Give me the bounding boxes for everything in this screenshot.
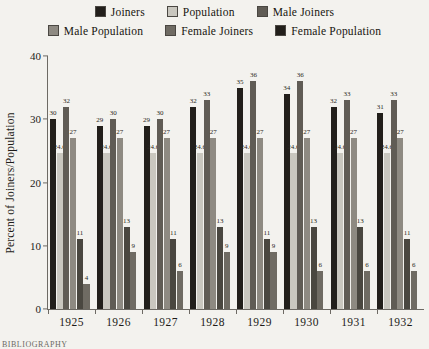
legend-item-male-joiners[interactable]: Male Joiners [257,6,334,18]
bar-male-population-1925[interactable]: 27 [70,138,76,309]
bar-female-joiners-1925[interactable]: 11 [77,239,83,309]
bar-female-joiners-1927[interactable]: 11 [170,239,176,309]
bar-slot: 24.6 [290,56,296,309]
bar-group-1927: 2924.63027116 [144,56,191,309]
bar-joiners-1928[interactable]: 32 [190,107,196,309]
legend-item-male-population[interactable]: Male Population [48,25,143,37]
bar-value-label: 31 [377,103,384,112]
bar-male-population-1932[interactable]: 27 [397,138,403,309]
bar-slot: 24.6 [197,56,203,309]
bar-slot: 6 [317,56,323,309]
bar-male-population-1926[interactable]: 27 [117,138,123,309]
bar-value-label: 27 [303,128,310,137]
bar-slot: 36 [297,56,303,309]
y-axis-title-label: Percent of Joiners/Population [4,112,16,253]
bar-female-population-1931[interactable]: 6 [364,271,370,309]
x-axis-tick-label-1929: 1929 [247,316,272,328]
legend-item-female-population[interactable]: Female Population [275,25,381,37]
bar-male-population-1930[interactable]: 27 [304,138,310,309]
bar-female-population-1925[interactable]: 4 [83,284,89,309]
x-axis-tick-mark [95,309,96,314]
bar-male-joiners-1925[interactable]: 32 [63,107,69,309]
bar-female-joiners-1931[interactable]: 13 [357,227,363,309]
bar-male-joiners-1931[interactable]: 33 [344,100,350,309]
bar-slot: 30 [157,56,163,309]
x-axis-tick-mark [189,309,190,314]
bar-slot: 24.6 [384,56,390,309]
bar-value-label: 13 [357,217,364,226]
bar-value-label: 6 [365,261,369,270]
bar-male-joiners-1926[interactable]: 30 [110,119,116,309]
bar-slot: 35 [237,56,243,309]
bar-male-population-1929[interactable]: 27 [257,138,263,309]
bar-female-joiners-1926[interactable]: 13 [124,227,130,309]
bar-female-joiners-1929[interactable]: 11 [264,239,270,309]
bar-value-label: 29 [96,116,103,125]
bar-female-joiners-1932[interactable]: 11 [404,239,410,309]
bar-value-label: 33 [390,90,397,99]
x-axis-tick-label-1926: 1926 [106,316,131,328]
bar-population-1932[interactable]: 24.6 [384,153,390,309]
legend-label: Male Population [64,25,143,37]
bar-female-population-1932[interactable]: 6 [411,271,417,309]
legend-swatch-icon [165,25,176,36]
bar-slot: 30 [50,56,56,309]
legend-swatch-icon [48,25,59,36]
x-axis-tick-mark [236,309,237,314]
bar-female-joiners-1930[interactable]: 13 [311,227,317,309]
bar-female-joiners-1928[interactable]: 13 [217,227,223,309]
bar-group-1929: 3524.63627119 [237,56,284,309]
bar-population-1929[interactable]: 24.6 [244,153,250,309]
bar-population-1928[interactable]: 24.6 [197,153,203,309]
bar-value-label: 32 [330,97,337,106]
bar-female-population-1926[interactable]: 9 [130,252,136,309]
bar-joiners-1930[interactable]: 34 [284,94,290,309]
bar-male-population-1927[interactable]: 27 [164,138,170,309]
bar-population-1925[interactable]: 24.6 [57,153,63,309]
x-axis-tick-mark [377,309,378,314]
bar-slot: 29 [144,56,150,309]
bar-slot: 27 [164,56,170,309]
bar-female-population-1929[interactable]: 9 [270,252,276,309]
bar-population-1931[interactable]: 24.6 [337,153,343,309]
y-axis-tick-mark [43,55,48,56]
bar-female-population-1930[interactable]: 6 [317,271,323,309]
bar-joiners-1932[interactable]: 31 [377,113,383,309]
bar-population-1930[interactable]: 24.6 [290,153,296,309]
bar-slot: 32 [190,56,196,309]
bar-slot: 13 [124,56,130,309]
bar-population-1926[interactable]: 24.6 [103,153,109,309]
bar-joiners-1931[interactable]: 32 [331,107,337,309]
bar-joiners-1929[interactable]: 35 [237,88,243,309]
bar-male-population-1931[interactable]: 27 [351,138,357,309]
bar-groups: 3024.632271142924.630271392924.630271163… [48,56,424,309]
bar-joiners-1926[interactable]: 29 [97,126,103,309]
bar-male-joiners-1932[interactable]: 33 [391,100,397,309]
legend-item-female-joiners[interactable]: Female Joiners [165,25,253,37]
bar-slot: 4 [83,56,89,309]
bar-male-joiners-1927[interactable]: 30 [157,119,163,309]
bar-slot: 11 [170,56,176,309]
bar-male-joiners-1930[interactable]: 36 [297,81,303,309]
bar-male-joiners-1928[interactable]: 33 [204,100,210,309]
legend-item-joiners[interactable]: Joiners [95,6,145,18]
bar-male-population-1928[interactable]: 27 [210,138,216,309]
bar-slot: 27 [117,56,123,309]
bar-value-label: 13 [217,217,224,226]
legend-item-population[interactable]: Population [167,6,235,18]
bar-slot: 6 [364,56,370,309]
bar-male-joiners-1929[interactable]: 36 [250,81,256,309]
y-axis-tick-mark [43,182,48,183]
bar-female-population-1927[interactable]: 6 [177,271,183,309]
bar-value-label: 30 [50,109,57,118]
bar-slot: 27 [304,56,310,309]
bar-slot: 11 [264,56,270,309]
bar-female-population-1928[interactable]: 9 [224,252,230,309]
bar-population-1927[interactable]: 24.6 [150,153,156,309]
bar-slot: 9 [130,56,136,309]
bar-slot: 34 [284,56,290,309]
bar-slot: 11 [77,56,83,309]
bar-joiners-1927[interactable]: 29 [144,126,150,309]
bar-slot: 33 [391,56,397,309]
bar-value-label: 11 [76,229,83,238]
